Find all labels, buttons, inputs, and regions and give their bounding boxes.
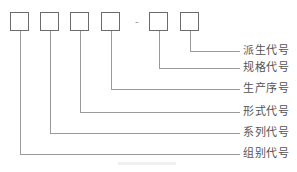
label-series: 系列代号 [243,127,289,139]
label-spec: 规格代号 [243,62,289,74]
figure-caption-illegible [118,162,176,165]
code-box-series [40,12,59,31]
connector-spec-h [159,68,240,69]
connector-derived-v [190,31,191,51]
label-sequence: 生产序号 [243,83,289,95]
code-box-form [70,12,89,31]
connector-group-v [20,31,21,155]
code-box-derived [180,12,199,31]
separator-dash: - [135,16,139,27]
connector-group-h [20,154,240,155]
label-derived: 派生代号 [243,45,289,57]
code-box-sequence [101,12,120,31]
connector-spec-v [159,31,160,69]
connector-series-h [50,133,240,134]
connector-sequence-v [111,31,112,90]
code-box-group [10,12,29,31]
label-group: 组别代号 [243,148,289,160]
connector-series-v [50,31,51,134]
label-form: 形式代号 [243,106,289,118]
connector-derived-h [190,51,240,52]
code-box-spec [149,12,168,31]
connector-form-h [80,112,240,113]
connector-form-v [80,31,81,113]
connector-sequence-h [111,89,240,90]
